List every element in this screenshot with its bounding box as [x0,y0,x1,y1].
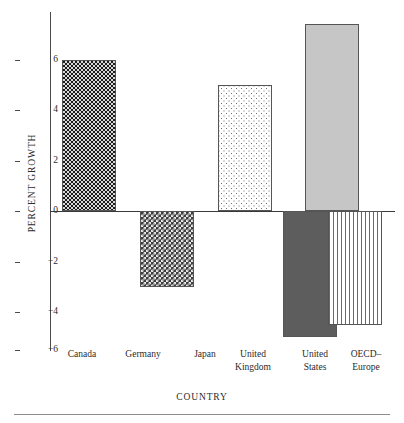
y-tick-label-2: 2 [53,155,58,165]
x-tick-label-oecd-europe-line-1: OECD– [328,348,404,361]
bar-oecd-europe [328,211,382,325]
y-tick-0: 0 [20,205,58,217]
plot-area: 6 4 2 0 −2 −4 −6 [50,12,395,351]
y-tick-mark-minus-4 [15,312,20,313]
bar-canada [62,60,116,211]
y-tick-mark-minus-2 [15,262,20,263]
y-tick-label-0: 0 [53,205,58,215]
y-tick-mark-2 [15,161,20,162]
footer-divider [14,414,390,415]
bar-chart-figure: PERCENT GROWTH 6 4 2 0 −2 −4 [0,0,404,423]
y-tick-2: 2 [20,155,58,167]
x-tick-label-oecd-europe: OECD– Europe [328,348,404,374]
y-axis-title: PERCENT GROWTH [27,103,37,263]
y-tick-4: 4 [20,104,58,116]
bar-germany [140,211,194,287]
y-tick-label-minus-2: −2 [48,256,58,266]
y-tick-label-6: 6 [53,54,58,64]
x-tick-label-oecd-europe-line-2: Europe [328,361,404,374]
y-tick-mark-4 [15,110,20,111]
bar-japan [218,85,272,211]
y-tick-mark-6 [15,60,20,61]
x-axis-title: COUNTRY [0,392,404,402]
y-tick-minus-4: −4 [20,306,58,318]
bar-united-states [305,24,359,211]
y-tick-label-minus-4: −4 [48,306,58,316]
y-tick-6: 6 [20,54,58,66]
y-tick-mark-minus-6 [15,350,20,351]
y-tick-mark-0 [15,211,20,212]
y-tick-label-4: 4 [53,104,58,114]
y-tick-minus-2: −2 [20,256,58,268]
